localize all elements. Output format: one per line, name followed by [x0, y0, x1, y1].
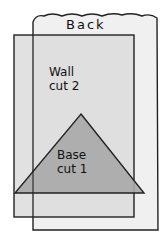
- back-label: Back: [66, 18, 106, 32]
- pattern-diagram: [0, 0, 166, 242]
- base-label-line2: cut 1: [57, 162, 107, 176]
- wall-label-line2: cut 2: [49, 79, 99, 93]
- base-label: Base cut 1: [57, 148, 107, 176]
- base-label-line1: Base: [57, 148, 107, 162]
- wall-label: Wall cut 2: [49, 65, 99, 93]
- wall-label-line1: Wall: [49, 65, 99, 79]
